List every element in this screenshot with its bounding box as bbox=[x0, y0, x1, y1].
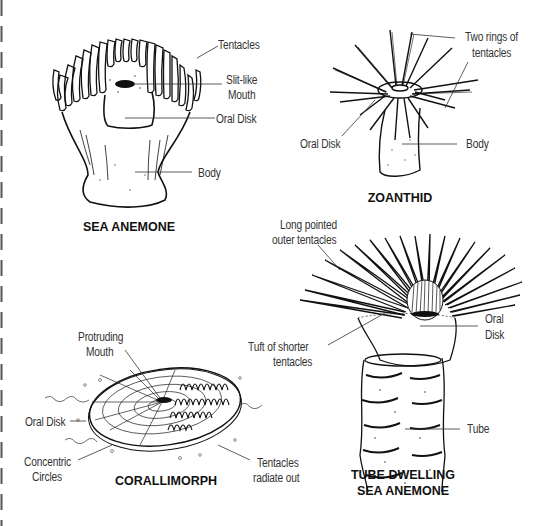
diagram-canvas: Tentacles Slit-like Mouth Oral Disk Body… bbox=[0, 0, 544, 526]
title-tube-dwelling-line2: SEA ANEMONE bbox=[333, 484, 473, 499]
label-outer-tentacles: outer tentacles bbox=[272, 233, 336, 247]
label-tube: Tube bbox=[467, 422, 489, 436]
label-long-pointed: Long pointed bbox=[280, 218, 337, 232]
title-tube-dwelling-line1: TUBE DWELLING bbox=[333, 468, 473, 483]
label-tuft-of-shorter: Tuft of shorter bbox=[248, 340, 309, 354]
label-disk: Disk bbox=[485, 328, 504, 342]
label-tentacles-4: tentacles bbox=[273, 355, 312, 369]
label-oral: Oral bbox=[485, 312, 504, 326]
tube-anemone-illustration bbox=[0, 0, 544, 526]
